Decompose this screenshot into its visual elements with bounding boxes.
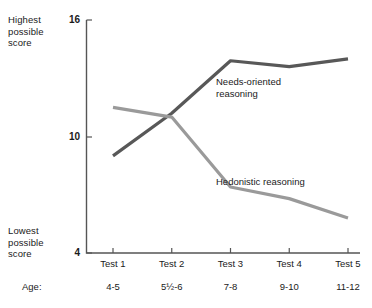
xtick-label-3: Test 3	[204, 258, 258, 269]
series-line-needs-oriented	[113, 59, 348, 156]
series-label-needs-oriented: Needs-oriented reasoning	[216, 76, 281, 99]
xtick-label-2: Test 2	[145, 258, 199, 269]
xtick-label-5: Test 5	[321, 258, 372, 269]
age-label-2: 5½-6	[145, 281, 199, 292]
series-label-hedonistic: Hedonistic reasoning	[216, 176, 305, 188]
ytick-label-16: 16	[58, 14, 80, 25]
axis-lines	[87, 20, 361, 253]
line-chart: Highest possible score Lowest possible s…	[0, 0, 372, 308]
ytick-label-10: 10	[58, 131, 80, 142]
ytick-label-4: 4	[58, 247, 80, 258]
age-label-1: 4-5	[86, 281, 140, 292]
series-line-hedonistic	[113, 107, 348, 218]
axis-group	[87, 20, 361, 253]
age-label-3: 7-8	[204, 281, 258, 292]
xtick-label-1: Test 1	[86, 258, 140, 269]
age-label-4: 9-10	[262, 281, 316, 292]
age-label-5: 11-12	[321, 281, 372, 292]
xtick-group	[113, 248, 348, 253]
xtick-label-4: Test 4	[262, 258, 316, 269]
